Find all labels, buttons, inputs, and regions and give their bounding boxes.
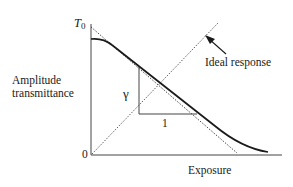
gamma-label: γ (123, 87, 129, 100)
ideal-response-line (92, 23, 218, 154)
origin-label: 0 (82, 148, 88, 161)
t0-label: T0 (74, 17, 85, 33)
t0-subscript: 0 (81, 21, 86, 31)
t0-symbol: T (74, 16, 81, 30)
ideal-response-label: Ideal response (205, 56, 271, 69)
x-axis-label: Exposure (188, 164, 231, 177)
y-axis-label-line-1: Amplitude (12, 74, 74, 87)
y-axis-label-line-2: transmittance (12, 87, 74, 100)
run-label: 1 (162, 117, 168, 130)
y-axis-label: Amplitude transmittance (12, 74, 74, 100)
